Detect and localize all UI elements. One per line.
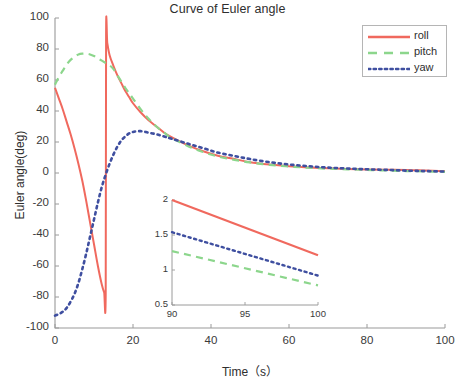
legend-swatch-yaw: [368, 67, 410, 70]
legend: roll pitch yaw: [362, 25, 447, 77]
inset-chart: [172, 200, 318, 305]
inset-series-line-roll: [172, 200, 318, 255]
euler-angle-chart-figure: Curve of Euler angle Euler angle(deg) Ti…: [0, 0, 455, 385]
y-tick-label: 80: [15, 41, 49, 53]
legend-label-roll: roll: [414, 29, 429, 41]
x-tick-label: 100: [428, 334, 455, 346]
inset-y-tick-label: 1.5: [146, 228, 168, 239]
legend-swatch-roll: [368, 35, 410, 38]
series-line-yaw: [55, 131, 445, 315]
legend-label-yaw: yaw: [414, 61, 434, 73]
inset-y-tick-label: 2: [146, 193, 168, 204]
x-tick-label: 40: [194, 334, 228, 346]
inset-x-tick-label: 100: [306, 308, 330, 319]
y-tick-label: -80: [15, 289, 49, 301]
y-tick-label: 60: [15, 72, 49, 84]
y-tick-label: 20: [15, 134, 49, 146]
legend-item-yaw: yaw: [363, 60, 448, 76]
y-tick-label: -40: [15, 227, 49, 239]
legend-item-roll: roll: [363, 28, 448, 44]
legend-swatch-pitch: [368, 51, 410, 54]
y-tick-label: -20: [15, 196, 49, 208]
x-tick-label: 60: [272, 334, 306, 346]
legend-item-pitch: pitch: [363, 44, 448, 60]
y-tick-label: 40: [15, 103, 49, 115]
x-tick-label: 0: [38, 334, 72, 346]
legend-label-pitch: pitch: [414, 45, 437, 57]
y-tick-label: -60: [15, 258, 49, 270]
inset-x-tick-label: 95: [233, 308, 257, 319]
inset-y-tick-label: 1: [146, 263, 168, 274]
inset-x-tick-label: 90: [160, 308, 184, 319]
x-tick-label: 80: [350, 334, 384, 346]
x-tick-label: 20: [116, 334, 150, 346]
y-tick-label: 0: [15, 165, 49, 177]
y-tick-label: -100: [15, 320, 49, 332]
y-tick-label: 100: [15, 10, 49, 22]
